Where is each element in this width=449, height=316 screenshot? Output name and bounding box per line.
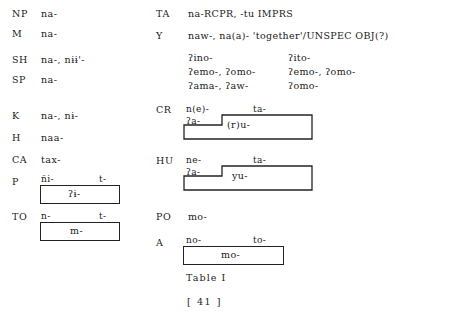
y-sub-left-line-1: ʔino- <box>188 52 213 63</box>
hu-upper-left-affix: ne- <box>186 155 201 165</box>
table-caption: Table I <box>186 272 226 283</box>
form-h: naa- <box>41 132 64 143</box>
p-right-affix: t- <box>99 174 106 184</box>
lang-label-to: TO <box>12 211 27 222</box>
to-box-text: m- <box>70 225 83 236</box>
form-sp: na- <box>41 74 58 85</box>
lang-label-ca: CA <box>12 154 27 165</box>
page-folio: [ 41 ] <box>187 296 222 307</box>
lang-label-np: NP <box>12 8 28 19</box>
form-m: na- <box>41 28 58 39</box>
lang-label-h: H <box>12 132 21 143</box>
lang-label-ta: TA <box>156 8 170 19</box>
y-sub-left-line-3: ʔama-, ʔaw- <box>188 80 249 91</box>
a-right-affix: to- <box>253 235 266 245</box>
form-y: naw-, na(a)- 'together'/UNSPEC OBJ(?) <box>188 30 389 41</box>
form-np: na- <box>41 8 58 19</box>
lang-label-a: A <box>156 237 163 248</box>
hu-inner-right-text: yu- <box>232 170 248 181</box>
p-left-affix: ñi- <box>41 174 54 184</box>
lang-label-po: PO <box>156 211 171 222</box>
a-box-text: mo- <box>221 249 240 260</box>
form-po: mo- <box>188 211 207 222</box>
y-sub-right-line-3: ʔomo- <box>288 80 319 91</box>
y-sub-left-line-2: ʔemo-, ʔomo- <box>188 66 256 77</box>
lang-label-k: K <box>12 110 20 121</box>
cr-upper-right-affix: ta- <box>253 104 266 114</box>
cr-inner-right-text: (r)u- <box>227 119 250 130</box>
p-box-text: ʔɨ- <box>68 188 81 199</box>
form-ta: na-RCPR, -tu IMPRS <box>188 8 293 19</box>
lang-label-sh: SH <box>12 54 28 65</box>
to-right-affix: t- <box>99 211 106 221</box>
hu-upper-right-affix: ta- <box>253 155 266 165</box>
y-sub-right-line-2: ʔemo-, ʔomo- <box>288 66 356 77</box>
lang-label-y: Y <box>156 30 163 41</box>
table-page: NP na- M na- SH na-, nɨɨ'- SP na- K na-,… <box>0 0 449 316</box>
form-k: na-, nɨ- <box>41 110 78 121</box>
y-sub-right-line-1: ʔito- <box>288 52 311 63</box>
lang-label-cr: CR <box>156 104 172 115</box>
form-ca: tax- <box>41 154 61 165</box>
lang-label-m: M <box>12 28 22 39</box>
form-sh: na-, nɨɨ'- <box>41 54 85 65</box>
cr-upper-left-affix: n(e)- <box>186 104 209 114</box>
to-left-affix: n- <box>41 211 51 221</box>
lang-label-hu: HU <box>156 155 174 166</box>
lang-label-sp: SP <box>12 74 26 85</box>
lang-label-p: P <box>12 176 19 187</box>
hu-step-box <box>183 165 313 191</box>
a-left-affix: no- <box>186 235 201 245</box>
